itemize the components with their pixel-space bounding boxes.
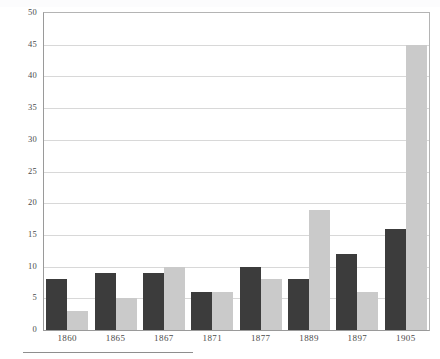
bar-light-1867: [164, 267, 185, 330]
bar-group: [336, 13, 378, 330]
bar-light-1860: [67, 311, 88, 330]
y-axis-tick-label: 5: [0, 293, 37, 302]
bar-light-1905: [406, 45, 427, 330]
y-axis-tick-label: 30: [0, 135, 37, 144]
bar-light-1897: [357, 292, 378, 330]
bar-dark-1860: [46, 279, 67, 330]
y-axis-tick-label: 25: [0, 167, 37, 176]
y-axis-tick-label: 0: [0, 325, 37, 334]
bar-light-1871: [212, 292, 233, 330]
bar-dark-1871: [191, 292, 212, 330]
bar-light-1877: [261, 279, 282, 330]
y-axis-tick-label: 40: [0, 71, 37, 80]
plot-area: [43, 12, 430, 331]
bar-dark-1889: [288, 279, 309, 330]
y-axis-tick-label: 15: [0, 230, 37, 239]
footer-rule: [23, 352, 193, 353]
x-axis-tick-label: 1905: [376, 334, 436, 343]
bar-chart-figure: 05101520253035404550 1860186518671871187…: [0, 0, 440, 359]
bar-dark-1867: [143, 273, 164, 330]
bar-group: [143, 13, 185, 330]
bar-group: [46, 13, 88, 330]
y-axis-tick-label: 35: [0, 103, 37, 112]
bar-group: [288, 13, 330, 330]
bar-group: [191, 13, 233, 330]
bar-group: [240, 13, 282, 330]
bar-dark-1905: [385, 229, 406, 330]
bar-dark-1897: [336, 254, 357, 330]
bar-light-1865: [116, 298, 137, 330]
y-axis-tick-label: 50: [0, 8, 37, 17]
bar-dark-1865: [95, 273, 116, 330]
bar-group: [95, 13, 137, 330]
bar-group: [385, 13, 427, 330]
bar-light-1889: [309, 210, 330, 331]
x-axis: 18601865186718711877188918971905: [43, 334, 430, 350]
y-axis-tick-label: 10: [0, 262, 37, 271]
bar-dark-1877: [240, 267, 261, 330]
y-axis-tick-label: 20: [0, 198, 37, 207]
y-axis-tick-label: 45: [0, 40, 37, 49]
bar-series-container: [44, 13, 429, 330]
